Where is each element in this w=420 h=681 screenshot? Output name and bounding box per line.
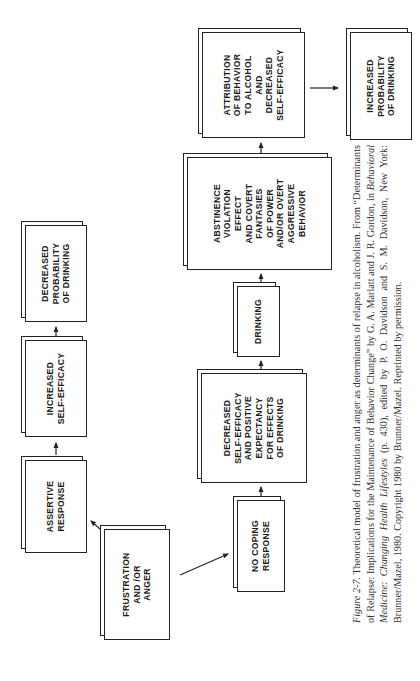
node-abstinence-violation-effect: ABSTINENCE VIOLATION EFFECT AND COVERT F… [187, 157, 332, 270]
arrow-frustration-to-assertive [91, 521, 100, 529]
caption-text-1: Theoretical model of frustration and ang… [351, 145, 376, 623]
node-decreased-self-efficacy: DECREASED SELF-EFFICACY AND POSITIVE EXP… [201, 373, 307, 483]
node-drinking: DRINKING [237, 286, 280, 357]
node-no-coping-response: NO COPING RESPONSE [237, 500, 285, 592]
node-increased-self-efficacy: INCREASED SELF-EFFICACY [25, 340, 87, 437]
node-decreased-probability: DECREASED PROBABILITY OF DRINKING [25, 225, 87, 322]
figure-caption: Figure 2-7. Theoretical model of frustra… [350, 145, 418, 623]
node-frustration-anger: FRUSTRATION AND /OR ANGER [104, 529, 170, 640]
node-attribution: ATTRIBUTION OF BEHAVIOR TO ALCOHOL AND D… [202, 32, 305, 138]
arrow-frustration-to-no-coping [180, 554, 228, 575]
node-assertive-response: ASSERTIVE RESPONSE [25, 460, 87, 553]
node-increased-probability: INCREASED PROBABILITY OF DRINKING [350, 32, 412, 140]
diagram-canvas: DECREASED PROBABILITY OF DRINKING INCREA… [0, 0, 420, 681]
figure-label: Figure 2-7. [351, 577, 362, 623]
